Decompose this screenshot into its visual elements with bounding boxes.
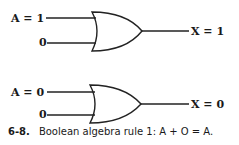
- output-label-bottom: X = 0: [191, 98, 224, 111]
- figure-caption: 6-8.Boolean algebra rule 1: A + O = A.: [8, 126, 213, 137]
- or-gate-diagrams: A = 1 0 X = 1 A = 0 0 X = 0: [0, 0, 239, 145]
- diagram-figure: A = 1 0 X = 1 A = 0 0 X = 0 6-8.Boolean …: [0, 0, 239, 145]
- input-a-label-bottom: A = 0: [10, 86, 44, 99]
- or-gate-top: A = 1 0 X = 1: [10, 12, 224, 51]
- input-b-label-bottom: 0: [39, 108, 47, 121]
- input-a-label-top: A = 1: [10, 12, 44, 25]
- or-gate-symbol-top: [92, 12, 142, 51]
- input-b-label-top: 0: [39, 36, 47, 49]
- figure-number: 6-8.: [8, 126, 30, 137]
- or-gate-symbol-bottom: [90, 85, 141, 123]
- figure-caption-text: Boolean algebra rule 1: A + O = A.: [39, 126, 213, 137]
- output-label-top: X = 1: [191, 25, 224, 38]
- or-gate-bottom: A = 0 0 X = 0: [10, 85, 224, 123]
